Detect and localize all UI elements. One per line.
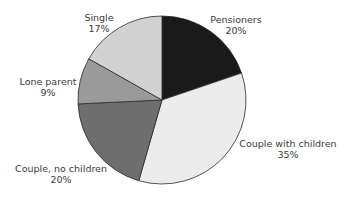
label-pct: 35% bbox=[239, 149, 336, 160]
label-pct: 20% bbox=[15, 174, 107, 185]
label-pct: 9% bbox=[20, 87, 77, 98]
label-single: Single17% bbox=[84, 12, 113, 34]
label-name: Couple, no children bbox=[15, 163, 107, 174]
label-pct: 17% bbox=[84, 23, 113, 34]
label-name: Couple with children bbox=[239, 138, 336, 149]
label-couple-with-children: Couple with children35% bbox=[239, 138, 336, 160]
label-pensioners: Pensioners20% bbox=[210, 14, 261, 36]
label-name: Single bbox=[84, 12, 113, 23]
label-lone-parent: Lone parent9% bbox=[20, 76, 77, 98]
label-name: Lone parent bbox=[20, 76, 77, 87]
label-pct: 20% bbox=[210, 25, 261, 36]
label-name: Pensioners bbox=[210, 14, 261, 25]
label-couple-no-children: Couple, no children20% bbox=[15, 163, 107, 185]
